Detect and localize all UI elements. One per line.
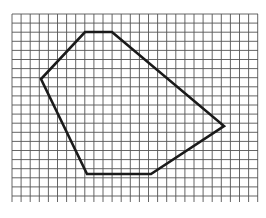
hexagon-shape: [41, 32, 224, 174]
grid-paper: [0, 0, 266, 218]
grid-diagram: [0, 0, 266, 218]
